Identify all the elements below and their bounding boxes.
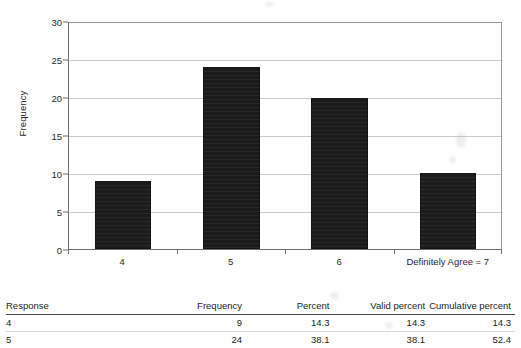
x-tick-mark	[394, 250, 395, 254]
table-body: 4914.314.314.352438.138.152.4	[6, 315, 515, 348]
cell-cumulative-percent: 14.3	[429, 315, 515, 332]
bar-slot	[177, 22, 285, 249]
column-header-valid-percent: Valid percent	[333, 298, 429, 315]
y-tick-label: 15	[30, 131, 62, 142]
x-axis-tick-labels: 456Definitely Agree = 7	[68, 256, 502, 267]
column-header-frequency: Frequency	[151, 298, 246, 315]
bar[interactable]	[420, 173, 476, 249]
cell-frequency: 9	[151, 315, 246, 332]
column-header-response: Response	[6, 298, 151, 315]
x-tick-mark	[285, 250, 286, 254]
page-root: Frequency 051015202530 456Definitely Agr…	[0, 0, 521, 348]
x-tick-mark	[68, 250, 69, 254]
scan-artifact	[265, 2, 274, 7]
cell-frequency: 24	[151, 332, 246, 348]
column-header-percent: Percent	[246, 298, 333, 315]
y-axis-title: Frequency	[17, 74, 28, 154]
table-header: Response Frequency Percent Valid percent…	[6, 298, 515, 315]
x-axis-tick-marks	[68, 250, 502, 255]
bar-chart-figure: Frequency 051015202530 456Definitely Agr…	[0, 0, 521, 276]
bar[interactable]	[311, 98, 367, 249]
x-tick-label: 5	[177, 256, 286, 267]
bar-slot	[69, 22, 177, 249]
x-tick-label: 4	[68, 256, 177, 267]
y-tick-label: 25	[30, 55, 62, 66]
x-tick-label: Definitely Agree = 7	[394, 256, 503, 267]
column-header-cumulative-percent: Cumulative percent	[429, 298, 515, 315]
cell-valid-percent: 38.1	[333, 332, 429, 348]
y-tick-label: 5	[30, 207, 62, 218]
table-row: 4914.314.314.3	[6, 315, 515, 332]
bars-layer	[69, 22, 502, 249]
y-tick-label: 20	[30, 93, 62, 104]
cell-valid-percent: 14.3	[333, 315, 429, 332]
bar[interactable]	[203, 67, 259, 249]
bar[interactable]	[95, 181, 151, 249]
bar-slot	[394, 22, 502, 249]
x-tick-mark	[177, 250, 178, 254]
cell-cumulative-percent: 52.4	[429, 332, 515, 348]
plot-area	[68, 22, 502, 250]
frequency-statistics-table: Response Frequency Percent Valid percent…	[6, 298, 515, 348]
cell-percent: 38.1	[246, 332, 333, 348]
y-tick-label: 30	[30, 17, 62, 28]
table-header-row: Response Frequency Percent Valid percent…	[6, 298, 515, 315]
table-row: 52438.138.152.4	[6, 332, 515, 348]
cell-response: 5	[6, 332, 151, 348]
cell-response: 4	[6, 315, 151, 332]
x-tick-label: 6	[285, 256, 394, 267]
y-tick-label: 10	[30, 169, 62, 180]
cell-percent: 14.3	[246, 315, 333, 332]
y-tick-label: 0	[30, 245, 62, 256]
y-axis-tick-labels: 051015202530	[30, 22, 62, 250]
bar-slot	[286, 22, 394, 249]
x-tick-mark	[501, 250, 502, 254]
